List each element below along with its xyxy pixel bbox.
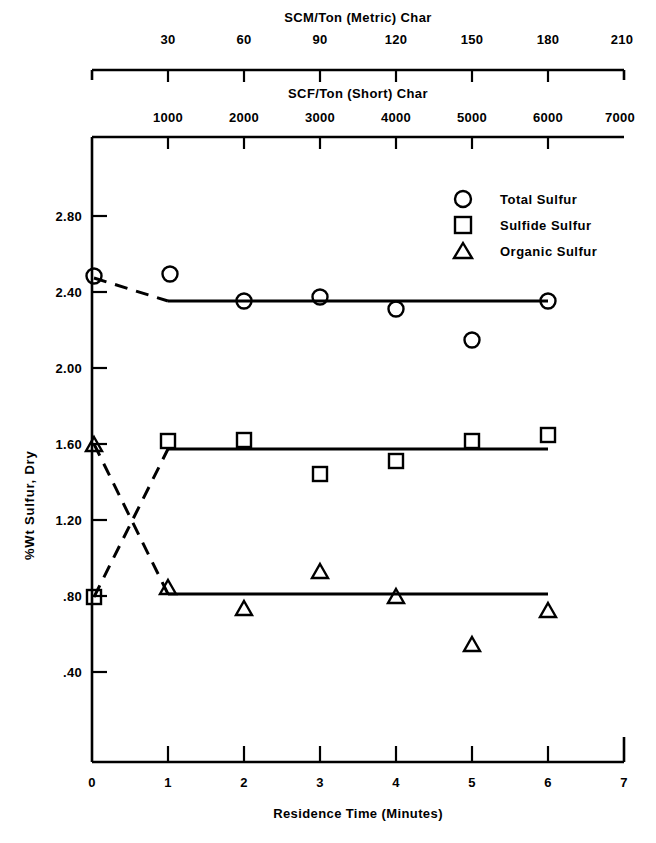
organic-sulfur-point — [540, 603, 556, 617]
scm-axis-ticks — [168, 70, 548, 82]
legend-marker-square — [455, 217, 471, 233]
sulfide-sulfur-point — [237, 433, 251, 447]
sulfide-sulfur-point — [161, 434, 175, 448]
total-sulfur-point — [87, 269, 102, 284]
sulfide-sulfur-point — [389, 454, 403, 468]
sulfide-sulfur-point — [541, 428, 555, 442]
legend-marker-circle — [455, 191, 471, 207]
series-total-sulfur — [87, 267, 556, 348]
sulfide-sulfur-point — [313, 467, 327, 481]
x-axis-ticks — [168, 746, 548, 762]
total-sulfur-point — [163, 267, 178, 282]
total-sulfur-point — [465, 333, 480, 348]
organic-sulfur-point — [388, 589, 404, 603]
organic-sulfur-point — [312, 564, 328, 578]
chart-canvas — [0, 0, 656, 843]
sulfide-sulfur-point — [465, 434, 479, 448]
sulfide-sulfur-dashed-fit — [94, 449, 168, 597]
legend — [454, 191, 472, 258]
legend-marker-triangle — [454, 243, 472, 258]
scm-axis-line — [92, 70, 624, 80]
organic-sulfur-point — [236, 601, 252, 615]
chart-figure: SCM/Ton (Metric) Char 30 60 90 120 150 1… — [0, 0, 656, 843]
scf-axis-ticks — [168, 137, 548, 149]
total-sulfur-point — [389, 302, 404, 317]
organic-sulfur-point — [464, 637, 480, 651]
total-sulfur-dashed-fit — [94, 278, 168, 301]
